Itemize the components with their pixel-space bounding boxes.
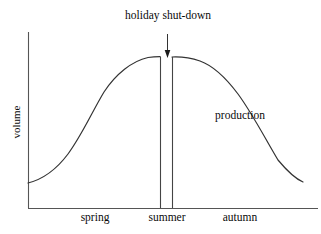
x-tick-label-spring: spring bbox=[81, 212, 110, 224]
production-series-label: production bbox=[215, 110, 265, 122]
x-tick-label-autumn: autumn bbox=[223, 212, 258, 224]
x-tick-label-summer: summer bbox=[148, 212, 185, 224]
production-volume-chart: holiday shut-down volume production spri… bbox=[0, 0, 321, 234]
chart-title: holiday shut-down bbox=[125, 10, 211, 22]
y-axis-label: volume bbox=[11, 106, 22, 139]
chart-canvas bbox=[0, 0, 321, 234]
